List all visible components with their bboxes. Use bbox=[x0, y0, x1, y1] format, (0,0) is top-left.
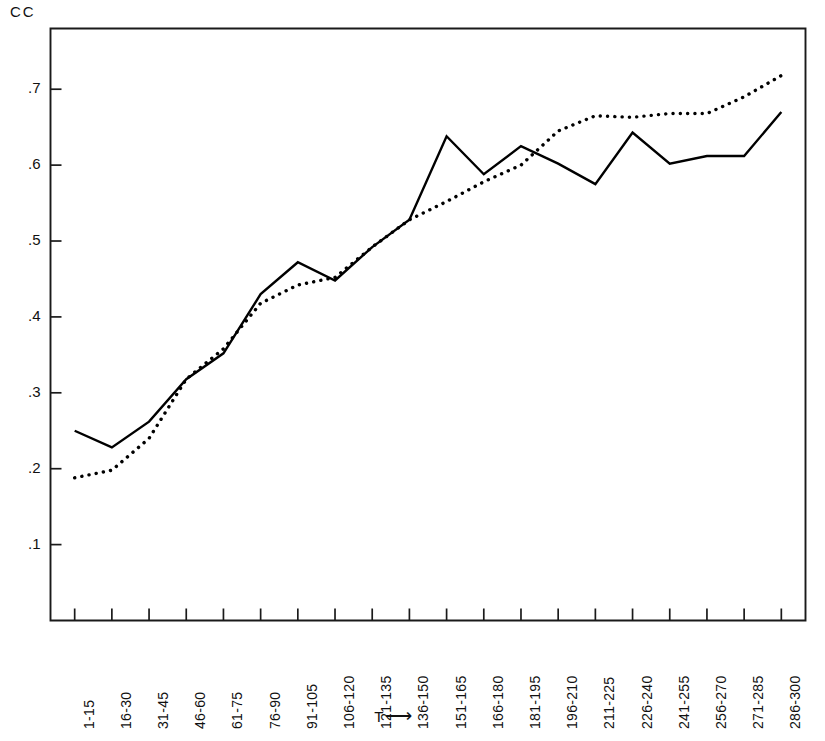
y-tick-label-2: .3 bbox=[7, 383, 41, 400]
y-axis-label: CC bbox=[10, 3, 36, 20]
x-tick-label-15: 226-240 bbox=[639, 675, 655, 728]
x-tick-label-9: 136-150 bbox=[415, 675, 431, 728]
y-tick-label-4: .5 bbox=[7, 231, 41, 248]
axes-box bbox=[51, 29, 806, 621]
y-tick-label-6: .7 bbox=[7, 79, 41, 96]
x-tick-label-7: 106-120 bbox=[341, 675, 357, 728]
x-tick-label-6: 91-105 bbox=[304, 683, 320, 728]
x-tick-label-2: 31-45 bbox=[155, 691, 171, 728]
x-tick-label-3: 46-60 bbox=[192, 691, 208, 728]
x-tick-label-19: 286-300 bbox=[787, 675, 803, 728]
data-series-group bbox=[75, 76, 782, 478]
x-axis-ticks bbox=[75, 609, 782, 621]
y-axis-ticks bbox=[51, 89, 62, 544]
x-tick-label-13: 196-210 bbox=[564, 675, 580, 728]
chart-figure: CC .1.2.3.4.5.6.7 1-1516-3031-4546-6061-… bbox=[0, 0, 825, 741]
y-tick-label-1: .2 bbox=[7, 459, 41, 476]
x-tick-label-1: 16-30 bbox=[118, 691, 134, 728]
series-line-solid bbox=[75, 112, 782, 447]
x-tick-label-4: 61-75 bbox=[229, 691, 245, 728]
y-tick-label-0: .1 bbox=[7, 535, 41, 552]
series-line-dotted bbox=[75, 76, 782, 478]
x-tick-label-16: 241-255 bbox=[676, 675, 692, 728]
right-arrow-icon: ⟶ bbox=[385, 706, 412, 725]
y-tick-label-3: .4 bbox=[7, 307, 41, 324]
x-axis-title-text: T bbox=[374, 708, 383, 725]
x-axis-title: T ⟶ bbox=[374, 707, 412, 726]
x-tick-label-12: 181-195 bbox=[527, 675, 543, 728]
chart-plot-area bbox=[0, 0, 825, 741]
x-tick-label-5: 76-90 bbox=[267, 691, 283, 728]
x-tick-label-18: 271-285 bbox=[750, 675, 766, 728]
x-tick-label-0: 1-15 bbox=[81, 699, 97, 728]
axes-frame bbox=[51, 29, 806, 621]
x-tick-label-11: 166-180 bbox=[490, 675, 506, 728]
x-tick-label-10: 151-165 bbox=[453, 675, 469, 728]
x-tick-label-14: 211-225 bbox=[601, 676, 617, 728]
y-tick-label-5: .6 bbox=[7, 155, 41, 172]
x-tick-label-17: 256-270 bbox=[713, 675, 729, 728]
